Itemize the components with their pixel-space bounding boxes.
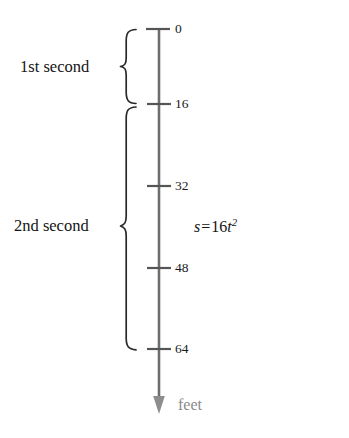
tick-label-48: 48 bbox=[175, 261, 189, 275]
axis-unit-label: feet bbox=[178, 397, 202, 413]
formula-s-equals-16-t-squared: s=16t2 bbox=[194, 219, 237, 235]
tick-label-32: 32 bbox=[175, 179, 189, 193]
free-fall-number-line-figure: 1st second 2nd second 0 16 32 48 64 s=16… bbox=[0, 0, 349, 438]
tick-label-0: 0 bbox=[175, 22, 182, 36]
brace-label-2nd-second: 2nd second bbox=[14, 218, 89, 235]
brace-1st-second bbox=[121, 30, 137, 104]
vertical-axis bbox=[153, 29, 165, 414]
tick-label-64: 64 bbox=[175, 342, 189, 356]
brace-2nd-second bbox=[121, 107, 137, 350]
axis-arrowhead-icon bbox=[153, 396, 165, 414]
formula-equals-sign: = bbox=[200, 218, 211, 235]
brace-label-1st-second: 1st second bbox=[20, 59, 89, 76]
formula-exponent: 2 bbox=[232, 216, 237, 228]
tick-label-16: 16 bbox=[175, 97, 189, 111]
formula-coefficient: 16 bbox=[211, 218, 227, 235]
